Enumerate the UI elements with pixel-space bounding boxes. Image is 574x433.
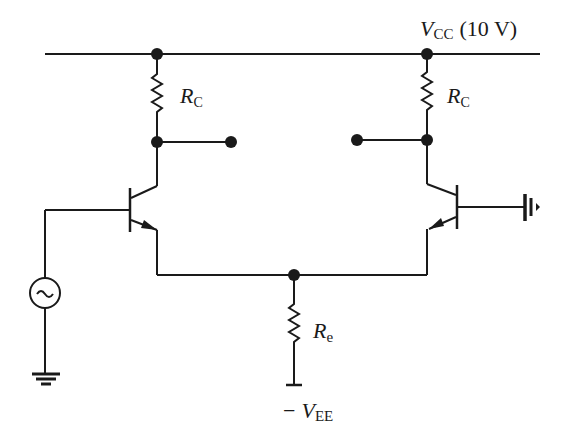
vcc-label: VCC(10 V) xyxy=(420,16,517,42)
resistor-rc-right xyxy=(422,54,432,140)
resistor-re xyxy=(286,275,302,385)
rc-right-label: RC xyxy=(446,83,470,110)
ground-icon-left xyxy=(32,374,60,384)
differential-amplifier-schematic: VCC(10 V) RC RC xyxy=(0,0,574,433)
output-terminal-left[interactable] xyxy=(225,136,237,148)
ground-icon-right xyxy=(525,194,540,221)
output-terminal-right[interactable] xyxy=(351,134,363,146)
transistor-q2 xyxy=(427,140,457,275)
re-label: Re xyxy=(312,318,333,345)
vee-label: −VEE xyxy=(283,398,333,424)
transistor-q1 xyxy=(130,142,157,275)
resistor-rc-left xyxy=(152,54,162,142)
ac-source xyxy=(30,278,60,308)
rc-left-label: RC xyxy=(179,83,203,110)
